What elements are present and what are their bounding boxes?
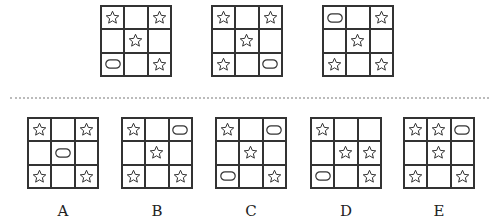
star-icon: [79, 169, 94, 184]
star-icon: [152, 10, 167, 25]
grid-cell-4: [28, 141, 51, 164]
grid-cell-9: [451, 165, 474, 188]
star-icon: [431, 145, 446, 160]
star-icon: [126, 122, 141, 137]
grid-cell-5: [124, 29, 147, 52]
star-icon: [79, 122, 94, 137]
grid-cell-3: [259, 6, 282, 29]
grid-cell-1: [28, 118, 51, 141]
grid-cell-4: [216, 141, 239, 164]
question-grid-2: [211, 5, 283, 77]
option-label-d[interactable]: D: [310, 202, 382, 220]
grid-cell-5: [334, 141, 357, 164]
grid-cell-2: [334, 118, 357, 141]
grid-cell-3: [75, 118, 98, 141]
grid-cell-6: [148, 29, 171, 52]
grid-cell-7: [101, 53, 124, 76]
grid-cell-7: [212, 53, 235, 76]
grid-cell-2: [239, 118, 262, 141]
star-icon: [455, 169, 470, 184]
rounded-rectangle-icon: [315, 171, 331, 181]
star-icon: [374, 57, 389, 72]
grid-cell-9: [370, 53, 393, 76]
grid-cell-4: [404, 141, 427, 164]
grid-cell-9: [169, 165, 192, 188]
grid-cell-1: [122, 118, 145, 141]
grid-cell-2: [124, 6, 147, 29]
grid-cell-5: [145, 141, 168, 164]
star-icon: [338, 145, 353, 160]
grid-cell-4: [101, 29, 124, 52]
star-icon: [126, 169, 141, 184]
rounded-rectangle-icon: [327, 13, 343, 23]
grid-cell-6: [358, 141, 381, 164]
star-icon: [431, 122, 446, 137]
grid-cell-1: [404, 118, 427, 141]
star-icon: [220, 122, 235, 137]
question-grid-3: [322, 5, 394, 77]
rounded-rectangle-icon: [454, 125, 470, 135]
star-icon: [362, 145, 377, 160]
rounded-rectangle-icon: [55, 148, 71, 158]
grid-cell-4: [323, 29, 346, 52]
grid-cell-6: [263, 141, 286, 164]
star-icon: [263, 10, 278, 25]
star-icon: [173, 169, 188, 184]
option-label-c[interactable]: C: [215, 202, 287, 220]
star-icon: [362, 169, 377, 184]
grid-cell-8: [346, 53, 369, 76]
grid-cell-9: [75, 165, 98, 188]
option-label-e[interactable]: E: [403, 202, 475, 220]
grid-cell-6: [259, 29, 282, 52]
grid-cell-8: [239, 165, 262, 188]
star-icon: [32, 122, 47, 137]
grid-cell-8: [427, 165, 450, 188]
grid-cell-3: [370, 6, 393, 29]
grid-cell-2: [51, 118, 74, 141]
grid-cell-4: [122, 141, 145, 164]
grid-cell-8: [51, 165, 74, 188]
grid-cell-9: [259, 53, 282, 76]
star-icon: [350, 33, 365, 48]
rounded-rectangle-icon: [105, 59, 121, 69]
grid-cell-7: [323, 53, 346, 76]
grid-cell-3: [451, 118, 474, 141]
dotted-divider: [10, 97, 489, 99]
star-icon: [105, 10, 120, 25]
star-icon: [149, 145, 164, 160]
star-icon: [408, 122, 423, 137]
grid-cell-9: [148, 53, 171, 76]
grid-cell-9: [263, 165, 286, 188]
grid-cell-2: [145, 118, 168, 141]
grid-cell-1: [311, 118, 334, 141]
grid-cell-3: [263, 118, 286, 141]
option-label-a[interactable]: A: [27, 202, 99, 220]
question-grid-1: [100, 5, 172, 77]
grid-cell-2: [346, 6, 369, 29]
option-grid-b[interactable]: [121, 117, 193, 189]
grid-cell-6: [75, 141, 98, 164]
option-grid-a[interactable]: [27, 117, 99, 189]
grid-cell-1: [101, 6, 124, 29]
grid-cell-3: [358, 118, 381, 141]
grid-cell-3: [169, 118, 192, 141]
grid-cell-7: [122, 165, 145, 188]
option-label-b[interactable]: B: [121, 202, 193, 220]
star-icon: [152, 57, 167, 72]
star-icon: [216, 10, 231, 25]
grid-cell-1: [212, 6, 235, 29]
rounded-rectangle-icon: [220, 171, 236, 181]
star-icon: [32, 169, 47, 184]
option-grid-d[interactable]: [310, 117, 382, 189]
star-icon: [239, 33, 254, 48]
option-grid-e[interactable]: [403, 117, 475, 189]
grid-cell-4: [212, 29, 235, 52]
rounded-rectangle-icon: [172, 125, 188, 135]
option-grid-c[interactable]: [215, 117, 287, 189]
star-icon: [315, 122, 330, 137]
star-icon: [243, 145, 258, 160]
grid-cell-8: [145, 165, 168, 188]
grid-cell-5: [427, 141, 450, 164]
grid-cell-7: [404, 165, 427, 188]
star-icon: [267, 169, 282, 184]
